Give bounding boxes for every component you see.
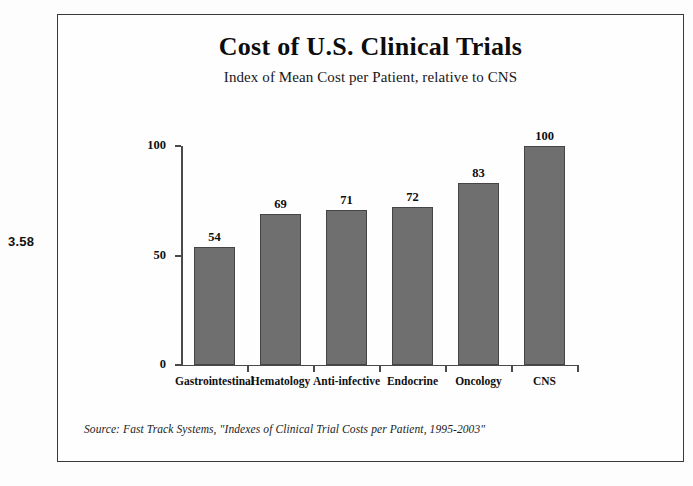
x-axis-tick (247, 365, 249, 372)
chart-page: 3.58 Cost of U.S. Clinical Trials Index … (0, 0, 693, 486)
x-axis-category-label: Gastrointestinal (175, 375, 254, 387)
bar: 100 CNS (524, 146, 565, 365)
chart-frame: Cost of U.S. Clinical Trials Index of Me… (57, 14, 684, 462)
x-axis-tick (379, 365, 381, 372)
y-axis-line (181, 146, 183, 365)
y-axis-tick: 100 (175, 145, 181, 147)
x-axis-category-label: Oncology (455, 375, 502, 387)
x-axis-tick (577, 365, 579, 372)
bar-value-label: 83 (472, 166, 485, 181)
y-axis-tick: 50 (175, 255, 181, 257)
y-axis-tick: 0 (175, 364, 181, 366)
x-axis-tick (445, 365, 447, 372)
y-axis-tick-label: 50 (154, 248, 167, 263)
bar-value-label: 71 (340, 193, 353, 208)
figure-number: 3.58 (8, 234, 34, 249)
bar: 83 Oncology (458, 183, 499, 365)
bar: 54 Gastrointestinal (194, 247, 235, 365)
bar-value-label: 100 (535, 129, 554, 144)
y-axis-tick-label: 100 (147, 138, 166, 153)
x-axis-category-label: CNS (533, 375, 556, 387)
plot-area: 100 50 0 54 Gastrointestinal 69 Hemato (181, 146, 579, 365)
bar: 69 Hematology (260, 214, 301, 365)
x-axis-tick (313, 365, 315, 372)
bar: 71 Anti-infective (326, 210, 367, 366)
bar: 72 Endocrine (392, 207, 433, 365)
bar-value-label: 54 (208, 230, 221, 245)
chart-title: Cost of U.S. Clinical Trials (58, 33, 683, 62)
source-note: Source: Fast Track Systems, "Indexes of … (84, 423, 485, 435)
x-axis-category-label: Hematology (251, 375, 310, 387)
x-axis-category-label: Endocrine (387, 375, 438, 387)
x-axis-tick (511, 365, 513, 372)
x-axis-category-label: Anti-infective (313, 375, 380, 387)
bar-value-label: 72 (406, 190, 419, 205)
y-axis-tick-label: 0 (160, 357, 166, 372)
chart-subtitle: Index of Mean Cost per Patient, relative… (58, 69, 683, 86)
chart-header: Cost of U.S. Clinical Trials Index of Me… (58, 33, 683, 86)
bar-value-label: 69 (274, 197, 287, 212)
